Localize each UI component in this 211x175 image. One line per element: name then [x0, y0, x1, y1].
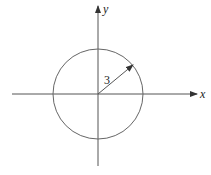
- radius-label: 3: [104, 73, 110, 87]
- y-axis-label: y: [102, 2, 109, 16]
- x-axis-label: x: [199, 87, 206, 101]
- circle-diagram: x y 3: [0, 0, 211, 175]
